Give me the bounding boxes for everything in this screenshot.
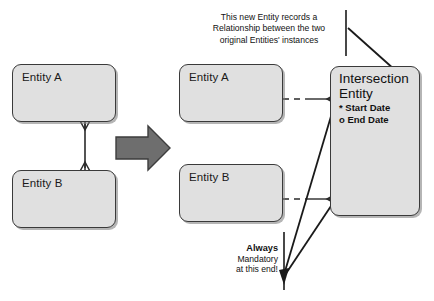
attribute-end-date: o End Date [339,114,390,126]
left-entity-b-box[interactable]: Entity B [12,170,116,228]
attribute-start-date: * Start Date [339,102,390,114]
bottom-note-line-3: at this end! [216,264,278,275]
intersection-entity-title-line2: Entity [339,86,373,101]
left-entity-a-label: Entity A [22,71,62,83]
bottom-note-leader [279,96,337,290]
attribute-marker-mandatory: * [339,102,343,113]
right-entity-a-box[interactable]: Entity A [179,64,283,122]
top-note-line-3: original Entities' instances [196,35,342,46]
top-annotation-note: This new Entity records a Relationship b… [196,12,342,46]
right-arrow-icon [116,126,170,170]
top-note-line-2: Relationship between the two [196,23,342,34]
left-entity-a-box[interactable]: Entity A [12,64,116,122]
right-entity-a-label: Entity A [189,71,229,83]
left-entity-b-label: Entity B [22,177,62,189]
top-note-line-1: This new Entity records a [196,12,342,23]
left-relationship-line [78,117,92,175]
diagram-canvas: Entity A Entity B Entity A Entity B Inte… [0,0,434,301]
bottom-annotation-note: Always Mandatory at this end! [216,243,278,275]
attribute-label-end-date: End Date [347,114,388,125]
bottom-note-line-1: Always [216,243,278,254]
intersection-entity-title-line1: Intersection [339,71,409,86]
attribute-label-start-date: Start Date [345,102,390,113]
intersection-entity-box[interactable]: Intersection Entity * Start Date o End D… [330,66,420,216]
top-note-leader [346,10,395,70]
bottom-note-line-2: Mandatory [216,254,278,265]
attribute-marker-optional: o [339,114,345,125]
right-entity-b-label: Entity B [189,171,229,183]
intersection-entity-attributes: * Start Date o End Date [339,102,390,125]
right-entity-b-box[interactable]: Entity B [179,164,283,222]
